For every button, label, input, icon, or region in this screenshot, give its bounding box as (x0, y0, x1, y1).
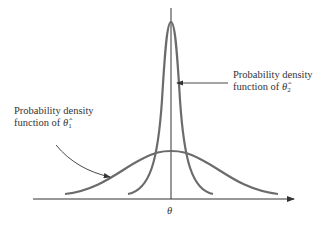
axis-label-theta: θ (167, 205, 172, 217)
label-theta2-line2: function of θ̂2 (233, 81, 313, 96)
label-theta1-line1: Probability density (14, 105, 94, 117)
pointer-arrow-theta1 (56, 145, 110, 177)
label-theta1-line2: function of θ̂1 (14, 117, 94, 132)
label-theta2: Probability density function of θ̂2 (233, 69, 313, 96)
label-theta1: Probability density function of θ̂1 (14, 105, 94, 132)
label-theta2-line1: Probability density (233, 69, 313, 81)
